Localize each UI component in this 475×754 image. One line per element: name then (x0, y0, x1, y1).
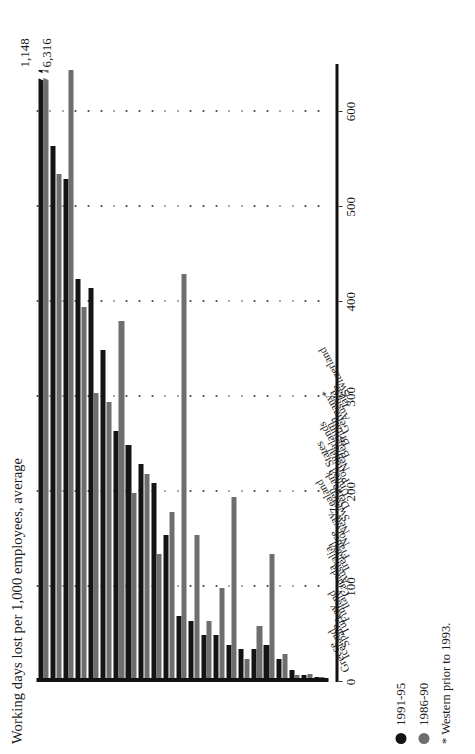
bar-older[interactable] (81, 307, 86, 678)
bar-older[interactable] (294, 675, 299, 678)
bar-recent[interactable] (301, 675, 306, 678)
bar-recent[interactable] (63, 179, 68, 678)
bar-row[interactable] (288, 64, 301, 678)
bar-recent[interactable] (188, 621, 193, 678)
bar-recent[interactable] (50, 146, 55, 678)
bar-recent[interactable] (113, 431, 118, 678)
bar-recent[interactable] (151, 483, 156, 678)
legend-label-recent: 1991-95 (392, 683, 408, 726)
value-axis-line (36, 678, 328, 682)
bar-older[interactable] (43, 70, 48, 678)
bar-row[interactable] (175, 64, 188, 678)
legend-label-older: 1986-90 (415, 683, 431, 726)
bar-older[interactable] (156, 554, 161, 678)
bar-row[interactable] (75, 64, 88, 678)
plot-area: 0100200300400500600 1,1486,316 (36, 0, 336, 754)
bar-recent[interactable] (238, 649, 243, 678)
bar-recent[interactable] (176, 616, 181, 678)
bar-row[interactable] (137, 64, 150, 678)
bar-recent[interactable] (314, 677, 319, 678)
bar-older[interactable] (68, 70, 73, 678)
bar-row[interactable] (213, 64, 226, 678)
bar-recent[interactable] (38, 70, 43, 678)
bar-recent[interactable] (100, 350, 105, 678)
axis-tick-label: 0 (342, 679, 358, 686)
bar-row[interactable] (100, 64, 113, 678)
legend-swatch-recent-icon (395, 733, 406, 744)
bar-older[interactable] (256, 626, 261, 678)
bar-recent[interactable] (88, 288, 93, 678)
bar-older[interactable] (131, 493, 136, 678)
bar-recent[interactable] (263, 645, 268, 678)
bar-row[interactable] (263, 64, 276, 678)
legend-item-older: 1986-90 (415, 623, 431, 744)
bar-row[interactable] (300, 64, 313, 678)
bar-row[interactable] (62, 64, 75, 678)
bar-older[interactable] (244, 659, 249, 678)
bar-older[interactable] (319, 677, 324, 678)
bar-older[interactable] (282, 654, 287, 678)
bar-older[interactable] (231, 497, 236, 678)
bar-older[interactable] (106, 402, 111, 678)
bar-row[interactable] (188, 64, 201, 678)
bar-older[interactable] (269, 554, 274, 678)
bar-row[interactable] (238, 64, 251, 678)
bar-row[interactable] (150, 64, 163, 678)
bar-row[interactable] (37, 64, 50, 678)
bar-older[interactable] (144, 474, 149, 678)
chart-figure: Working days lost per 1,000 employees, a… (0, 0, 475, 754)
bar-recent[interactable] (201, 635, 206, 678)
bar-older[interactable] (169, 512, 174, 678)
chart-title: Working days lost per 1,000 employees, a… (8, 458, 25, 744)
bar-recent[interactable] (125, 445, 130, 678)
bar-row[interactable] (112, 64, 125, 678)
legend-swatch-older-icon (418, 733, 429, 744)
bar-row[interactable] (50, 64, 63, 678)
bar-recent[interactable] (289, 670, 294, 678)
bar-recent[interactable] (163, 535, 168, 678)
bar-older[interactable] (93, 393, 98, 678)
bar-older[interactable] (206, 621, 211, 678)
bar-value-label: 6,316 (38, 38, 54, 67)
bar-recent[interactable] (251, 649, 256, 678)
axis-tick-mark (338, 681, 342, 682)
bar-older[interactable] (219, 588, 224, 678)
chart-legend: 1991-95 1986-90 * Western prior to 1993. (392, 623, 453, 744)
bar-older[interactable] (307, 674, 312, 678)
bar-row[interactable] (200, 64, 213, 678)
bar-recent[interactable] (138, 464, 143, 678)
bar-older[interactable] (181, 274, 186, 678)
bar-recent[interactable] (226, 645, 231, 678)
bar-older[interactable] (56, 174, 61, 678)
bar-rows (37, 64, 327, 678)
bar-value-label: 1,148 (16, 38, 32, 67)
bar-recent[interactable] (213, 635, 218, 678)
bar-row[interactable] (313, 64, 326, 678)
category-labels: GreeceIcelandSpainTurkeyFinlandItalyCana… (338, 64, 428, 678)
legend-item-recent: 1991-95 (392, 623, 408, 744)
bar-recent[interactable] (276, 659, 281, 678)
bar-row[interactable] (125, 64, 138, 678)
bar-row[interactable] (225, 64, 238, 678)
chart-footnote: * Western prior to 1993. (438, 623, 453, 744)
bar-row[interactable] (250, 64, 263, 678)
bar-row[interactable] (275, 64, 288, 678)
bar-older[interactable] (118, 321, 123, 678)
bar-recent[interactable] (75, 279, 80, 678)
bar-row[interactable] (87, 64, 100, 678)
bar-row[interactable] (162, 64, 175, 678)
chart-canvas: Working days lost per 1,000 employees, a… (0, 0, 475, 754)
bar-older[interactable] (194, 535, 199, 678)
